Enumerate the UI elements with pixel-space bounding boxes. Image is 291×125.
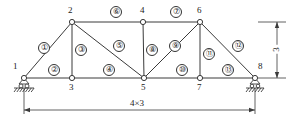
span-dimension-label: 4×3 <box>128 99 146 108</box>
truss-node-7 <box>197 75 202 80</box>
truss-node-5 <box>141 75 146 80</box>
node-label-5: 5 <box>141 83 146 92</box>
truss-node-8 <box>252 75 257 80</box>
member-label-3: ③ <box>75 44 87 56</box>
member-label-12: ⑫ <box>232 40 244 52</box>
truss-diagram: 12345678①②③④⑤⑥⑦⑧⑨⑩⑪⑫⑬4×33 <box>0 0 291 125</box>
dim-arrow-right <box>249 108 255 112</box>
member-label-13: ⑬ <box>222 64 234 76</box>
member-label-11: ⑪ <box>203 48 215 60</box>
member-label-6: ⑥ <box>110 6 122 18</box>
dim-arrow-bottom <box>275 72 279 78</box>
truss-node-4 <box>140 19 145 24</box>
node-label-3: 3 <box>69 83 74 92</box>
dim-arrow-top <box>275 22 279 28</box>
node-label-7: 7 <box>197 83 202 92</box>
dimension-lines-group <box>24 22 286 114</box>
truss-member-8 <box>143 22 144 78</box>
height-dimension-label: 3 <box>272 45 281 54</box>
member-label-2: ② <box>48 64 60 76</box>
supports-group <box>14 78 264 92</box>
truss-node-3 <box>69 75 74 80</box>
member-label-1: ① <box>38 42 50 54</box>
truss-node-2 <box>69 19 74 24</box>
truss-node-1 <box>21 75 26 80</box>
node-label-4: 4 <box>140 6 145 15</box>
member-label-8: ⑧ <box>146 44 158 56</box>
member-label-10: ⑩ <box>176 64 188 76</box>
node-label-1: 1 <box>13 62 18 71</box>
dim-arrow-left <box>24 108 30 112</box>
truss-node-6 <box>197 19 202 24</box>
member-label-7: ⑦ <box>170 6 182 18</box>
member-label-9: ⑨ <box>169 40 181 52</box>
node-label-8: 8 <box>258 62 263 71</box>
member-label-5: ⑤ <box>113 40 125 52</box>
member-label-4: ④ <box>103 64 115 76</box>
node-label-6: 6 <box>197 6 202 15</box>
node-label-2: 2 <box>68 6 73 15</box>
